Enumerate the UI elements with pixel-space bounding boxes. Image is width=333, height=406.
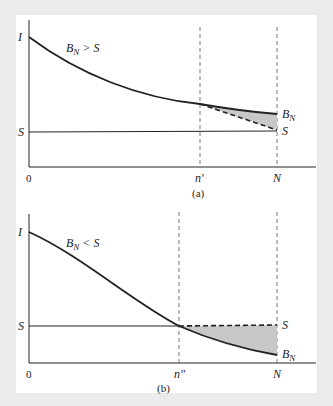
caption-b: (b)	[157, 382, 170, 395]
shaded-area-b	[179, 325, 277, 355]
condition-label-a: BN > S	[66, 41, 99, 57]
s-line-a	[29, 131, 277, 132]
caption-a: (a)	[192, 187, 205, 200]
label-origin-a: 0	[26, 172, 32, 184]
label-n-prime: n'	[195, 171, 204, 185]
label-N-b: N	[272, 367, 282, 381]
end-label-BN-b: BN	[282, 347, 296, 363]
condition-label-b: BN < S	[66, 236, 99, 252]
label-I-a: I	[17, 30, 23, 44]
label-I-b: I	[17, 225, 23, 239]
end-label-S-a: S	[282, 124, 288, 138]
panel-a: I S 0 n' N BN > S BN S (a)	[17, 20, 316, 200]
label-S-a: S	[18, 125, 24, 139]
label-S-b: S	[18, 319, 24, 333]
label-origin-b: 0	[26, 368, 32, 380]
label-N-a: N	[272, 171, 282, 185]
label-n-double-prime: n"	[174, 367, 186, 381]
panel-b: I S 0 n" N BN < S S BN (b)	[17, 212, 316, 395]
end-label-BN-a: BN	[282, 107, 296, 123]
end-label-S-b: S	[282, 318, 288, 332]
diagram-canvas: I S 0 n' N BN > S BN S (a) I S 0 n" N BN…	[0, 0, 333, 406]
